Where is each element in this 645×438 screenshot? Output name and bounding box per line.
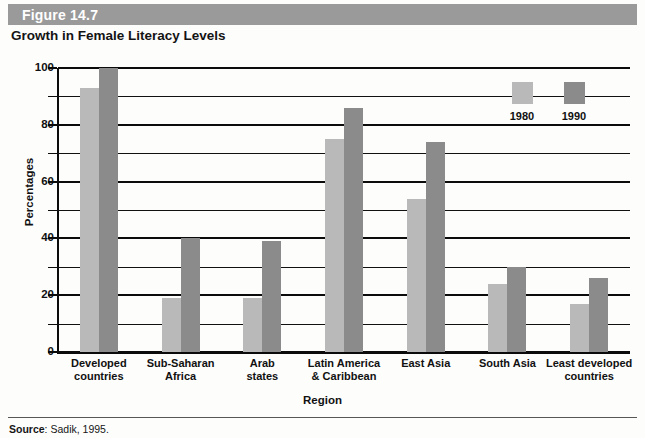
bar-1980-5 — [488, 284, 507, 352]
bar-1990-2 — [262, 241, 281, 352]
plot-area — [58, 68, 630, 352]
x-category-label-3: Latin America& Caribbean — [298, 357, 390, 382]
x-category-label-1: Sub-SaharanAfrica — [135, 357, 227, 382]
bar-1990-6 — [589, 278, 608, 352]
footer-divider — [8, 417, 637, 418]
bar-1980-1 — [162, 298, 181, 352]
bar-1980-6 — [570, 304, 589, 352]
y-tick-mark-30 — [48, 267, 57, 268]
bar-1980-4 — [407, 199, 426, 352]
x-category-label-2: Arabstates — [216, 357, 308, 382]
legend-swatch-1990 — [564, 82, 585, 104]
x-category-label-5: South Asia — [462, 357, 554, 370]
y-tick-mark-60 — [48, 181, 57, 183]
bar-1990-0 — [99, 68, 118, 352]
x-category-label-4: East Asia — [380, 357, 472, 370]
bar-1990-1 — [181, 238, 200, 352]
legend-label-1980: 1980 — [502, 110, 542, 122]
figure-number-bar: Figure 14.7 — [8, 4, 637, 25]
x-category-label-6: Least developedcountries — [543, 357, 635, 382]
y-tick-mark-20 — [48, 294, 57, 296]
source-label: Source — [9, 423, 45, 435]
bar-1990-5 — [507, 267, 526, 352]
y-tick-mark-90 — [48, 96, 57, 97]
bar-1990-3 — [344, 108, 363, 352]
bar-1990-4 — [426, 142, 445, 352]
y-tick-mark-50 — [48, 210, 57, 211]
gridline-minor-90 — [58, 96, 630, 97]
bar-1980-3 — [325, 139, 344, 352]
y-tick-mark-80 — [48, 124, 57, 126]
y-tick-mark-100 — [48, 67, 57, 69]
bar-1980-0 — [80, 88, 99, 352]
legend-label-1990: 1990 — [554, 110, 594, 122]
legend-swatch-1980 — [512, 82, 533, 104]
y-tick-mark-0 — [48, 351, 57, 353]
gridline-major-100 — [58, 67, 630, 69]
x-category-label-0: Developedcountries — [53, 357, 145, 382]
x-axis-title: Region — [0, 394, 645, 406]
y-tick-mark-70 — [48, 153, 57, 154]
figure-container: Figure 14.7 Growth in Female Literacy Le… — [0, 0, 645, 438]
bar-1980-2 — [243, 298, 262, 352]
source-text: Sadik, 1995. — [50, 423, 108, 435]
source-line: Source: Sadik, 1995. — [9, 423, 109, 435]
y-tick-mark-40 — [48, 237, 57, 239]
y-tick-mark-10 — [48, 324, 57, 325]
y-axis-title: Percentages — [23, 147, 35, 237]
